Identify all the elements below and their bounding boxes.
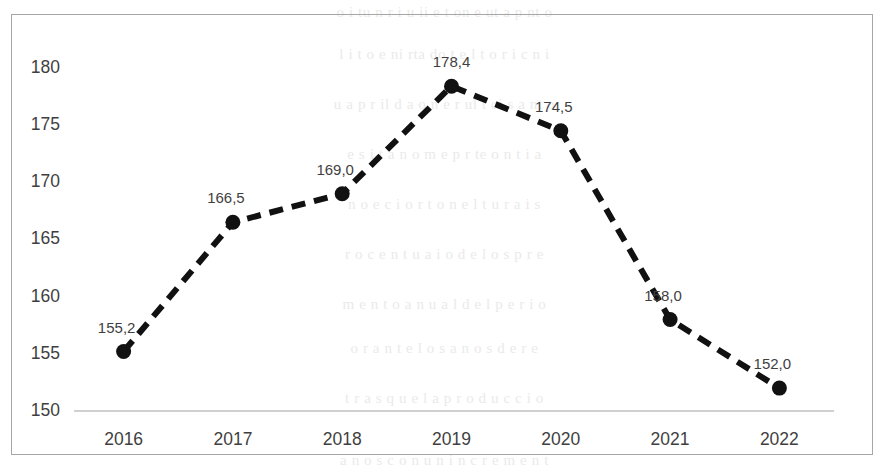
data-label-2017: 166,5 xyxy=(181,189,271,206)
data-point-2016 xyxy=(116,344,131,359)
data-label-2022: 152,0 xyxy=(727,355,817,372)
series-line-path xyxy=(124,86,780,388)
data-label-2016: 155,2 xyxy=(72,319,162,336)
y-tick-label-155: 155 xyxy=(12,343,60,364)
y-tick-label-180: 180 xyxy=(12,57,60,78)
x-tick-label-2017: 2017 xyxy=(183,429,283,450)
data-point-2020 xyxy=(553,123,568,138)
data-point-2019 xyxy=(444,79,459,94)
y-tick-label-160: 160 xyxy=(12,286,60,307)
data-label-2020: 174,5 xyxy=(509,98,599,115)
x-tick-label-2016: 2016 xyxy=(74,429,174,450)
chart-container: 180 175 170 165 160 155 150 2016 2017 20… xyxy=(11,14,873,455)
x-tick-label-2018: 2018 xyxy=(292,429,392,450)
data-label-2018: 169,0 xyxy=(290,161,380,178)
data-point-2022 xyxy=(772,381,787,396)
data-point-2017 xyxy=(225,215,240,230)
plot-area xyxy=(12,15,874,456)
y-tick-label-150: 150 xyxy=(12,400,60,421)
y-tick-label-175: 175 xyxy=(12,114,60,135)
x-tick-label-2020: 2020 xyxy=(511,429,611,450)
x-tick-label-2019: 2019 xyxy=(402,429,502,450)
data-label-2019: 178,4 xyxy=(407,53,497,70)
x-tick-label-2021: 2021 xyxy=(620,429,720,450)
data-label-2021: 158,0 xyxy=(618,287,708,304)
y-tick-label-170: 170 xyxy=(12,171,60,192)
x-tick-label-2022: 2022 xyxy=(729,429,829,450)
data-point-2018 xyxy=(335,186,350,201)
y-tick-label-165: 165 xyxy=(12,228,60,249)
data-point-2021 xyxy=(663,312,678,327)
